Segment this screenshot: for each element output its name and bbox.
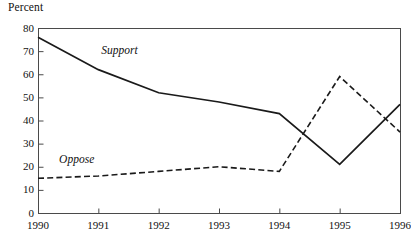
x-tick-label: 1994 — [268, 220, 290, 231]
y-tick-label: 20 — [10, 161, 34, 172]
y-tick-label: 30 — [10, 138, 34, 149]
series-label-oppose: Oppose — [59, 154, 94, 166]
y-tick-label: 0 — [10, 208, 34, 219]
x-tick-label: 1993 — [208, 220, 230, 231]
x-tick-label: 1992 — [148, 220, 170, 231]
x-tick-label: 1996 — [389, 220, 411, 231]
series-label-support: Support — [101, 45, 137, 57]
plot-frame — [39, 29, 401, 214]
y-tick-label: 80 — [10, 23, 34, 34]
x-tick-label: 1990 — [27, 220, 49, 231]
series-line-support — [38, 37, 400, 164]
x-tick-label: 1991 — [87, 220, 109, 231]
y-tick-label: 70 — [10, 46, 34, 57]
y-tick-label: 60 — [10, 69, 34, 80]
x-tick-label: 1995 — [329, 220, 351, 231]
y-tick-label: 10 — [10, 184, 34, 195]
y-axis-title: Percent — [8, 1, 43, 13]
axis-tickmarks — [39, 29, 401, 214]
y-tick-label: 50 — [10, 92, 34, 103]
y-tick-label: 40 — [10, 115, 34, 126]
